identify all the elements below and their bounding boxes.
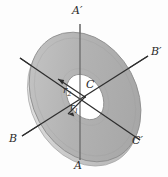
inner-radius-subscript: 1 bbox=[74, 107, 78, 115]
annular-disk-axes-figure: A′ A B′ B C′ C r2 r1 bbox=[0, 0, 168, 177]
inner-radius-label: r1 bbox=[70, 103, 78, 114]
figure-canvas bbox=[0, 0, 168, 177]
outer-radius-label: r2 bbox=[63, 86, 71, 97]
center-point-marker bbox=[84, 96, 86, 98]
center-label-c: C bbox=[86, 79, 94, 90]
axis-label-b-prime-right: B′ bbox=[151, 46, 162, 57]
axis-label-b-left: B bbox=[9, 133, 17, 144]
axis-label-c-prime-right: C′ bbox=[132, 135, 143, 146]
outer-radius-subscript: 2 bbox=[67, 90, 71, 98]
axis-label-a-prime-top: A′ bbox=[72, 5, 82, 16]
axis-label-a-bottom: A bbox=[74, 160, 82, 171]
